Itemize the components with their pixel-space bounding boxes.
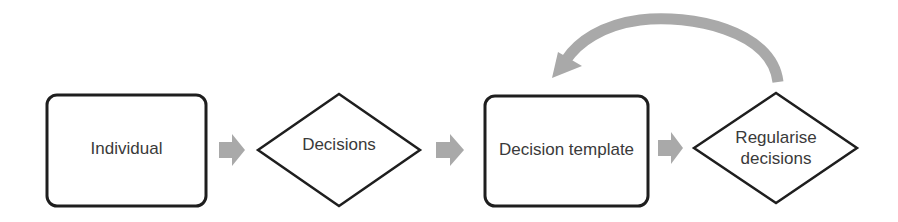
node-decisions-label: Decisions: [270, 94, 408, 194]
node-individual-label: Individual: [47, 95, 206, 201]
block-arrow-1-icon: [219, 134, 245, 166]
block-arrow-2-icon: [436, 134, 464, 166]
node-regularise-decisions-label: Regularise decisions: [706, 93, 846, 203]
block-arrow-3-icon: [658, 132, 683, 164]
node-decision-template-label: Decision template: [485, 96, 648, 202]
feedback-arrow: [552, 19, 778, 82]
